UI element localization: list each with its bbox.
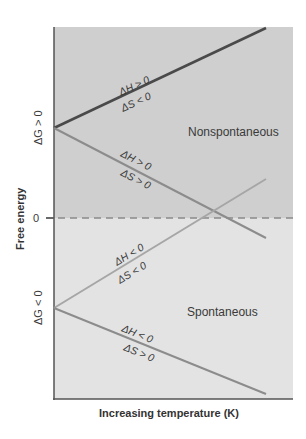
y-axis-title: Free energy: [14, 187, 26, 250]
nonspontaneous-label: Nonspontaneous: [188, 125, 279, 139]
dg-positive-label: ΔG > 0: [32, 110, 44, 145]
zero-tick-label: 0: [33, 212, 39, 224]
free-energy-diagram: Nonspontaneous Spontaneous ΔH > 0 ΔS < 0…: [0, 0, 306, 439]
spontaneous-label: Spontaneous: [187, 305, 258, 319]
x-axis-title: Increasing temperature (K): [99, 407, 239, 419]
dg-negative-label: ΔG < 0: [32, 290, 44, 325]
